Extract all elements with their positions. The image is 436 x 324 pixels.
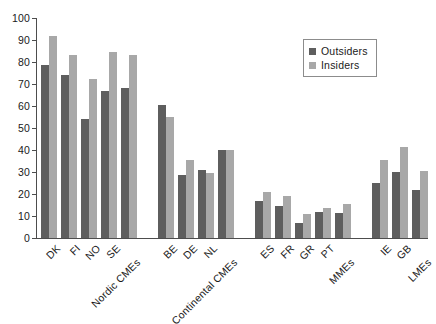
bar [295,223,303,238]
legend-label-outsiders: Outsiders [321,45,368,57]
x-axis-tick-label: BE [161,242,180,261]
bar [323,208,331,238]
bar [275,206,283,238]
bar [412,190,420,238]
bar [420,171,428,238]
bar [392,172,400,238]
bar [121,88,129,238]
bar [166,117,174,238]
bar [303,214,311,238]
x-axis-labels: DKFINOSENordic CMEsBEDENLContinental CME… [36,240,428,324]
x-axis-tick-label: GB [394,242,414,262]
bar [158,105,166,238]
bar [69,55,77,238]
x-axis-tick-label: NO [83,242,103,262]
bar [218,150,226,238]
bar [335,213,343,238]
x-axis-tick-label: DE [180,242,199,261]
legend-item-insiders: Insiders [309,58,368,72]
x-axis-tick-label: IE [378,242,394,258]
x-axis-tick-label: LMEs [405,256,433,284]
bar [315,212,323,238]
x-axis-tick-label: MMEs [326,256,356,286]
bar [380,160,388,238]
bar [101,91,109,238]
legend-swatch-insiders [309,62,316,69]
y-axis-tick-mark [32,238,36,239]
bar [255,201,263,238]
bar [283,196,291,238]
bar [400,147,408,238]
bar [89,79,97,239]
bar [178,175,186,238]
bar [49,36,57,238]
bar [206,173,214,238]
x-axis-tick-label: DK [43,242,62,261]
legend-swatch-outsiders [309,48,316,55]
x-axis-tick-label: GR [297,242,317,262]
bar [81,119,89,238]
x-axis-tick-label: ES [258,242,277,261]
bar-chart: 0102030405060708090100 DKFINOSENordic CM… [0,0,436,324]
chart-legend: Outsiders Insiders [303,39,377,77]
bar [129,55,137,238]
bar [109,52,117,238]
legend-item-outsiders: Outsiders [309,44,368,58]
x-axis-tick-label: Nordic CMEs [89,256,143,310]
bar [372,183,380,238]
bar [198,170,206,238]
x-axis-tick-label: FR [278,242,297,261]
bar [263,192,271,238]
legend-label-insiders: Insiders [321,59,359,71]
bar [61,75,69,238]
bar [186,160,194,238]
x-axis-tick-label: SE [104,242,123,261]
bar [226,150,234,238]
x-axis-tick-label: PT [318,242,336,260]
bar [343,204,351,238]
x-axis-line [36,238,428,239]
x-axis-tick-label: FI [67,242,82,257]
x-axis-tick-label: NL [201,242,219,260]
x-axis-tick-label: Continental CMEs [169,256,240,324]
bar [41,65,49,238]
